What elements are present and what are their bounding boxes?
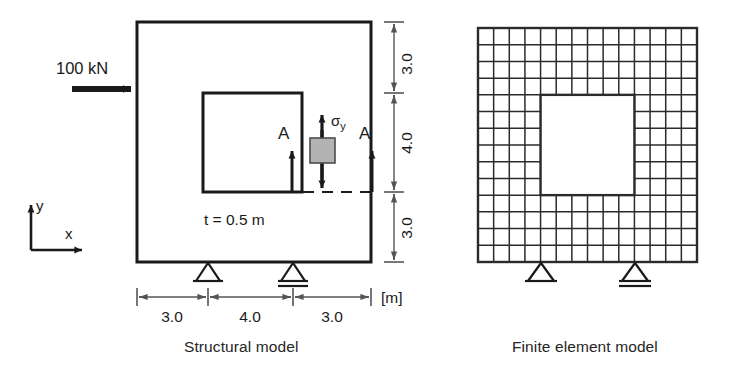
figure-canvas: 100 kN A A σy t = 0.5 m — [0, 0, 742, 376]
support-roller-structural — [278, 263, 308, 286]
section-label-left: A — [278, 124, 290, 143]
axis-x-label: x — [65, 225, 73, 242]
horizontal-dimension-chain: 3.0 4.0 3.0 [m] — [137, 288, 403, 325]
mesh-hole-outline — [541, 95, 635, 195]
dimension-horizontal-2: 4.0 — [239, 308, 261, 325]
coordinate-axes: y x — [31, 197, 82, 250]
finite-element-model-panel — [478, 28, 697, 286]
caption-finite-element-model: Finite element model — [512, 338, 658, 356]
axis-y-label: y — [36, 197, 44, 214]
thickness-label: t = 0.5 m — [204, 211, 265, 228]
vertical-dimension-chain: 3.0 4.0 3.0 — [384, 22, 415, 262]
dimension-vertical-1: 3.0 — [398, 53, 415, 75]
finite-element-mesh — [478, 28, 697, 262]
dimension-horizontal-1: 3.0 — [161, 308, 183, 325]
dimension-horizontal-3: 3.0 — [321, 308, 343, 325]
support-roller-fem — [619, 263, 651, 286]
caption-structural-model: Structural model — [184, 338, 298, 356]
support-pin-fem — [525, 263, 557, 281]
dimension-vertical-2: 4.0 — [398, 132, 415, 154]
support-pin-structural — [193, 263, 223, 281]
dimension-vertical-3: 3.0 — [398, 217, 415, 239]
structural-model-panel: 100 kN A A σy t = 0.5 m — [31, 22, 415, 325]
section-label-right: A — [359, 124, 371, 143]
unit-label: [m] — [381, 289, 403, 306]
engineering-figure: 100 kN A A σy t = 0.5 m — [0, 0, 742, 376]
stress-element — [310, 138, 335, 163]
load-label: 100 kN — [56, 59, 108, 77]
stress-subscript: y — [340, 120, 346, 132]
